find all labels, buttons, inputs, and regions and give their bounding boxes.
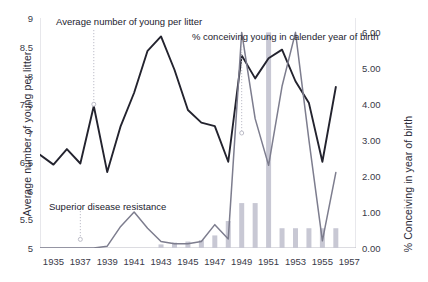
y-tick-label-left: 7 [0, 128, 33, 139]
y-tick-label-right: 3.00 [362, 135, 381, 146]
bar [185, 242, 190, 248]
plot-area [40, 18, 356, 248]
bar [333, 228, 338, 248]
x-tick-label: 1951 [258, 256, 279, 267]
leader-percent-conceiving-endpoint [240, 131, 244, 135]
bar [253, 203, 258, 248]
y-tick-label-right: 2.00 [362, 171, 381, 182]
bar [239, 203, 244, 248]
x-tick-label: 1955 [312, 256, 333, 267]
x-tick-label: 1945 [177, 256, 198, 267]
x-tick-label: 1937 [70, 256, 91, 267]
x-tick-label: 1947 [204, 256, 225, 267]
y-tick-label-left: 7.5 [0, 99, 33, 110]
chart-container: Average number of young per litter % Con… [0, 0, 428, 282]
x-tick-label: 1941 [124, 256, 145, 267]
y-tick-label-right: 5.00 [362, 63, 381, 74]
y-tick-label-right: 4.00 [362, 99, 381, 110]
y-tick-label-left: 8.5 [0, 41, 33, 52]
plot-svg [40, 18, 356, 248]
bar [159, 244, 164, 248]
y-tick-label-left: 9 [0, 13, 33, 24]
y-tick-label-left: 5 [0, 243, 33, 254]
leader-superior-disease-resistance-endpoint [78, 237, 82, 241]
y-tick-label-right: 1.00 [362, 207, 381, 218]
annotation-percent-conceiving: % conceiving young in calender year of b… [192, 31, 378, 42]
annotation-average-young: Average number of young per litter [56, 16, 202, 27]
y-tick-label-left: 8 [0, 70, 33, 81]
bar [266, 32, 271, 248]
x-tick-label: 1957 [339, 256, 360, 267]
y-tick-label-left: 6.5 [0, 156, 33, 167]
x-tick-label: 1939 [97, 256, 118, 267]
line-average-young [40, 36, 336, 172]
x-tick-label: 1935 [43, 256, 64, 267]
x-tick-label: 1949 [231, 256, 252, 267]
bar [293, 228, 298, 248]
bar [212, 235, 217, 248]
x-tick-label: 1943 [150, 256, 171, 267]
y-tick-label-left: 6 [0, 185, 33, 196]
x-tick-label: 1953 [285, 256, 306, 267]
bar [280, 228, 285, 248]
bar [306, 228, 311, 248]
y-axis-right-title: % Conceiving in year of birth [402, 109, 414, 259]
line-percent-conceiving [40, 32, 336, 248]
annotation-superior-disease-resistance: Superior disease resistance [49, 201, 166, 212]
y-tick-label-left: 5.5 [0, 214, 33, 225]
leader-average-young-endpoint [92, 102, 96, 106]
y-tick-label-right: 0.00 [362, 243, 381, 254]
